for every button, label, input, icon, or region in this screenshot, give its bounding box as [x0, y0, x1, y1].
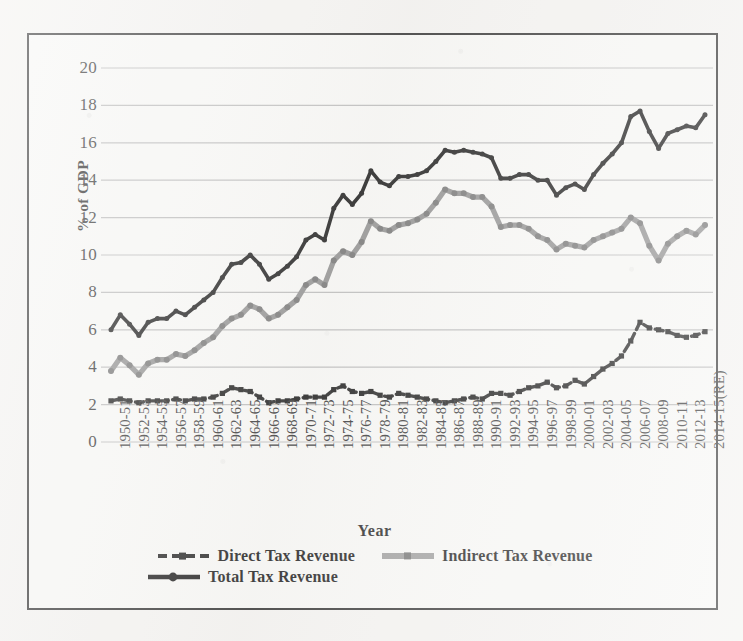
data-point	[229, 262, 234, 267]
legend-item-indirect-tax-revenue[interactable]: Indirect Tax Revenue	[381, 547, 592, 565]
data-point	[433, 159, 438, 164]
data-point	[582, 187, 587, 192]
data-point	[276, 271, 281, 276]
data-point	[321, 282, 327, 288]
data-point	[322, 395, 327, 400]
data-point	[563, 185, 568, 190]
data-point	[257, 395, 262, 400]
data-point	[303, 395, 308, 400]
data-point	[480, 152, 485, 157]
legend-label: Direct Tax Revenue	[218, 547, 356, 565]
data-point	[610, 152, 615, 157]
data-point	[182, 353, 188, 359]
gridlines	[101, 68, 713, 442]
data-point	[368, 389, 373, 394]
data-point	[396, 174, 401, 179]
data-point	[526, 172, 531, 177]
data-point	[517, 172, 522, 177]
data-point	[387, 183, 392, 188]
data-point	[313, 395, 318, 400]
data-point	[479, 194, 485, 200]
data-point	[303, 238, 308, 243]
data-point	[693, 125, 698, 130]
data-point	[452, 398, 457, 403]
data-point	[313, 232, 318, 237]
data-point	[248, 389, 253, 394]
series-direct-tax-revenue	[108, 320, 707, 406]
data-point	[442, 187, 448, 193]
data-point	[164, 357, 170, 363]
data-point	[526, 385, 531, 390]
data-point	[210, 334, 216, 340]
data-point	[285, 398, 290, 403]
data-point	[378, 393, 383, 398]
data-point	[220, 391, 225, 396]
data-point	[609, 230, 615, 236]
data-point	[266, 316, 272, 322]
data-point	[117, 355, 123, 361]
data-point	[285, 264, 290, 269]
data-point	[164, 398, 169, 403]
data-point	[443, 148, 448, 153]
data-point	[452, 150, 457, 155]
data-point	[331, 258, 337, 264]
data-point	[451, 190, 457, 196]
data-point	[702, 329, 707, 334]
data-point	[619, 353, 624, 358]
data-point	[554, 385, 559, 390]
data-point	[248, 253, 253, 258]
data-point	[414, 216, 420, 222]
data-point	[517, 389, 522, 394]
data-point	[127, 322, 132, 327]
data-point	[526, 226, 532, 232]
data-point	[183, 398, 188, 403]
data-point	[656, 258, 662, 264]
data-point	[192, 347, 198, 353]
data-point	[600, 161, 605, 166]
data-point	[535, 233, 541, 239]
data-point	[600, 366, 605, 371]
x-axis-title: Year	[29, 522, 720, 540]
data-point	[665, 241, 671, 247]
data-point	[257, 262, 262, 267]
data-point	[405, 393, 410, 398]
legend-label: Total Tax Revenue	[208, 568, 338, 586]
data-point	[349, 252, 355, 258]
legend-item-direct-tax-revenue[interactable]: Direct Tax Revenue	[157, 547, 356, 565]
data-point	[266, 277, 271, 282]
data-point	[618, 226, 624, 232]
data-point	[684, 123, 689, 128]
data-point	[424, 168, 429, 173]
data-point	[415, 395, 420, 400]
data-point	[563, 383, 568, 388]
legend-item-total-tax-revenue[interactable]: Total Tax Revenue	[147, 568, 338, 586]
data-point	[210, 395, 215, 400]
data-point	[146, 320, 151, 325]
data-point	[545, 178, 550, 183]
data-point	[702, 222, 708, 228]
data-point	[406, 174, 411, 179]
data-point	[443, 400, 448, 405]
data-point	[674, 233, 680, 239]
plot-area: % of GDP 02468101214161820 1950-511952-5…	[29, 35, 720, 612]
data-point	[591, 172, 596, 177]
data-point	[118, 312, 123, 317]
data-point	[201, 396, 206, 401]
data-point	[284, 304, 290, 310]
data-point	[127, 398, 132, 403]
data-point	[229, 385, 234, 390]
data-point	[108, 368, 114, 374]
data-point	[109, 327, 114, 332]
data-point	[312, 276, 318, 282]
data-point	[470, 194, 476, 200]
chart-legend: Direct Tax Revenue Indirect Tax Revenue	[29, 544, 720, 586]
data-point	[693, 231, 699, 237]
legend-row-1: Direct Tax Revenue Indirect Tax Revenue	[29, 547, 720, 565]
data-point	[665, 329, 670, 334]
data-point	[480, 396, 485, 401]
data-point	[211, 290, 216, 295]
data-series-layer	[108, 109, 708, 406]
data-point	[229, 316, 235, 322]
data-point	[610, 361, 615, 366]
data-point	[396, 391, 401, 396]
